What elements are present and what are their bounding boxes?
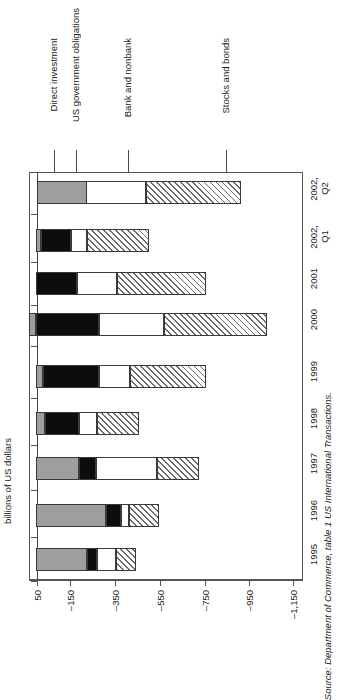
category-label: 2002, Q1 (308, 225, 330, 249)
value-tick (37, 580, 38, 586)
callout-label-direct-investment: Direct investment (48, 38, 59, 111)
value-tick-label: –950 (244, 590, 255, 611)
bar-segment (71, 229, 87, 252)
value-tick-label: –1,150 (288, 590, 299, 619)
category-tick (31, 445, 37, 446)
value-tick (115, 580, 116, 586)
value-tick (205, 580, 206, 586)
category-label: 1997 (308, 453, 319, 474)
value-tick (160, 580, 161, 586)
bar-segment (87, 548, 97, 571)
bar-segment (130, 365, 206, 388)
bar-segment (36, 313, 99, 336)
bar-segment (86, 181, 146, 204)
bar-segment (99, 365, 130, 388)
bar-segment (117, 272, 206, 295)
value-tick-label: –350 (110, 590, 121, 611)
bar-segment (106, 504, 121, 527)
category-label: 1995 (308, 544, 319, 565)
bar-segment (96, 457, 157, 480)
category-tick (31, 537, 37, 538)
bar-segment (79, 412, 97, 435)
bar-segment (116, 548, 136, 571)
bar-segment (29, 313, 36, 336)
category-tick (31, 398, 37, 399)
bar-segment (43, 365, 99, 388)
category-tick (31, 346, 37, 347)
bar-segment (41, 229, 71, 252)
bar-segment (45, 412, 79, 435)
bar-segment (97, 412, 139, 435)
category-tick (31, 262, 37, 263)
bar-segment (97, 548, 116, 571)
bar-segment (121, 504, 129, 527)
bar-segment (157, 457, 199, 480)
category-tick (31, 214, 37, 215)
bar-segment (77, 272, 117, 295)
category-label: 2002, Q2 (308, 177, 330, 201)
bar-segment (129, 504, 159, 527)
value-tick-label: –750 (200, 590, 211, 611)
value-tick (249, 580, 250, 586)
bar-segment (36, 457, 79, 480)
bar-segment (36, 504, 106, 527)
bar-segment (87, 229, 149, 252)
value-tick-label: 50 (32, 590, 43, 601)
value-tick-label: –150 (65, 590, 76, 611)
bar-segment (36, 548, 87, 571)
category-label: 1996 (308, 500, 319, 521)
category-label: 2001 (308, 268, 319, 289)
value-tick (70, 580, 71, 586)
bar-segment (36, 412, 45, 435)
value-tick (293, 580, 294, 586)
category-tick (31, 490, 37, 491)
callout-label-stocks-and-bonds: Stocks and bonds (220, 38, 231, 114)
category-label: 1998 (308, 408, 319, 429)
axis-title: billions of US dollars (2, 438, 13, 524)
callout-label-bank-and-nonbank: Bank and nonbank (122, 38, 133, 117)
bar-segment (164, 313, 267, 336)
bar-segment (146, 181, 241, 204)
callout-label-us-government-obligations: US government obligations (70, 8, 81, 122)
bar-segment (36, 272, 77, 295)
source-note: Source: Department of Commerce, table 1 … (322, 392, 333, 700)
bar-segment (79, 457, 96, 480)
category-tick (31, 305, 37, 306)
bar-segment (37, 181, 87, 204)
category-label: 2000 (308, 309, 319, 330)
bar-segment (36, 365, 43, 388)
bar-segment (99, 313, 164, 336)
value-tick-label: –550 (155, 590, 166, 611)
category-label: 1999 (308, 361, 319, 382)
